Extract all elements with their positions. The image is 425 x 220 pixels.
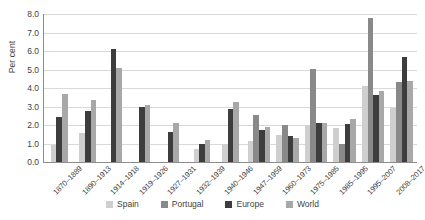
bar-group	[74, 14, 103, 162]
bar-world	[62, 94, 68, 162]
legend-item-world[interactable]: World	[286, 199, 319, 209]
bar-chart: Per cent 0.01.02.03.04.05.06.07.08.0 187…	[0, 0, 425, 220]
x-label-slot: 1947–1959	[245, 162, 274, 202]
legend-label: Spain	[117, 199, 139, 209]
bar-group	[273, 14, 302, 162]
bar-world	[265, 127, 271, 162]
x-label-slot: 1932–1939	[188, 162, 217, 202]
x-label-slot: 1870–1889	[45, 162, 74, 202]
y-axis-tick-label: 3.0	[27, 102, 39, 112]
bar-world	[350, 119, 356, 162]
legend-swatch-icon	[106, 201, 113, 208]
y-axis-tick-label: 2.0	[27, 120, 39, 130]
bar-world	[293, 138, 299, 162]
x-axis-labels: 1870–18891890–19131914–19181919–19261927…	[43, 162, 417, 202]
bar-group	[188, 14, 217, 162]
x-label-slot: 1927–1931	[159, 162, 188, 202]
bar-group	[387, 14, 416, 162]
y-axis-tick-label: 8.0	[27, 9, 39, 19]
bar-world	[322, 123, 328, 162]
bar-world	[91, 100, 97, 162]
bar-world	[205, 140, 211, 162]
bar-group	[359, 14, 388, 162]
legend-label: World	[297, 199, 319, 209]
x-label-slot: 1985–1995	[330, 162, 359, 202]
legend-swatch-icon	[286, 201, 293, 208]
bar-world	[116, 68, 122, 162]
x-label-slot: 1960–1973	[273, 162, 302, 202]
x-label-slot: 1940–1946	[216, 162, 245, 202]
bar-group	[330, 14, 359, 162]
bar-world	[173, 123, 179, 162]
plot-area: 0.01.02.03.04.05.06.07.08.0	[43, 14, 417, 162]
bar-group	[216, 14, 245, 162]
bar-group	[302, 14, 331, 162]
y-axis-tick-label: 7.0	[27, 28, 39, 38]
legend-swatch-icon	[161, 201, 168, 208]
y-axis-tick-label: 5.0	[27, 65, 39, 75]
x-label-slot: 1919–1926	[131, 162, 160, 202]
x-label-slot: 1914–1918	[102, 162, 131, 202]
x-label-slot: 1890–1913	[74, 162, 103, 202]
bar-group	[131, 14, 160, 162]
legend-label: Portugal	[172, 199, 204, 209]
x-label-slot: 2008–2017	[387, 162, 416, 202]
bar-group	[102, 14, 131, 162]
bar-world	[379, 91, 385, 162]
legend-label: Europe	[236, 199, 263, 209]
x-label-slot: 1995–2007	[359, 162, 388, 202]
y-axis-title: Per cent	[7, 21, 17, 93]
bar-group	[45, 14, 74, 162]
bar-world	[145, 105, 151, 162]
x-label-slot: 1975–1985	[302, 162, 331, 202]
x-axis-tick-label: 2008–2017	[394, 164, 425, 197]
y-axis-tick-label: 6.0	[27, 46, 39, 56]
bar-group	[245, 14, 274, 162]
legend-item-portugal[interactable]: Portugal	[161, 199, 204, 209]
legend: SpainPortugalEuropeWorld	[0, 199, 425, 209]
bar-world	[407, 81, 413, 162]
bars-layer	[43, 14, 417, 162]
bar-group	[159, 14, 188, 162]
y-axis-tick-label: 1.0	[27, 139, 39, 149]
legend-swatch-icon	[225, 201, 232, 208]
y-axis-tick-label: 4.0	[27, 83, 39, 93]
y-axis-tick-label: 0.0	[27, 157, 39, 167]
legend-item-europe[interactable]: Europe	[225, 199, 263, 209]
legend-item-spain[interactable]: Spain	[106, 199, 139, 209]
bar-world	[233, 102, 239, 162]
